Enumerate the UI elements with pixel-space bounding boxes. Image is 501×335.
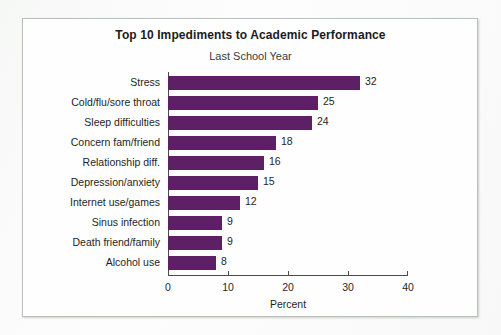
bar-row: Death friend/family9 — [168, 236, 408, 250]
category-label: Sleep difficulties — [84, 116, 160, 128]
scanned-page-background: the very top of the same students report… — [0, 0, 501, 335]
x-axis-tick-label: 10 — [222, 281, 234, 293]
x-axis-end-cap — [407, 271, 408, 276]
bar-row: Sinus infection9 — [168, 216, 408, 230]
x-axis-tick — [228, 271, 229, 276]
bar-value-label: 12 — [245, 195, 257, 207]
category-label: Cold/flu/sore throat — [71, 96, 160, 108]
bar — [168, 216, 222, 230]
x-axis-tick-label: 0 — [165, 281, 171, 293]
bar-row: Relationship diff.16 — [168, 156, 408, 170]
bar-value-label: 9 — [227, 215, 233, 227]
bar — [168, 256, 216, 270]
bar-row: Depression/anxiety15 — [168, 176, 408, 190]
x-axis-label: Percent — [168, 298, 408, 310]
bar-value-label: 18 — [281, 135, 293, 147]
category-label: Sinus infection — [92, 216, 160, 228]
bar-value-label: 9 — [227, 235, 233, 247]
x-axis-tick-label: 30 — [342, 281, 354, 293]
bar-value-label: 25 — [323, 95, 335, 107]
category-label: Depression/anxiety — [71, 176, 160, 188]
chart-title: Top 10 Impediments to Academic Performan… — [0, 28, 501, 42]
category-label: Death friend/family — [72, 236, 160, 248]
bar-value-label: 16 — [269, 155, 281, 167]
bar-row: Cold/flu/sore throat25 — [168, 96, 408, 110]
x-axis-tick — [348, 271, 349, 276]
bar-row: Alcohol use8 — [168, 256, 408, 270]
bar-row: Internet use/games12 — [168, 196, 408, 210]
bar — [168, 96, 318, 110]
x-axis-tick-label: 40 — [402, 281, 414, 293]
bar — [168, 156, 264, 170]
bar-row: Sleep difficulties24 — [168, 116, 408, 130]
bar — [168, 236, 222, 250]
category-label: Stress — [130, 76, 160, 88]
bar-row: Stress32 — [168, 76, 408, 90]
bar-value-label: 24 — [317, 115, 329, 127]
bar-chart-plot-area: Stress32Cold/flu/sore throat25Sleep diff… — [168, 72, 408, 276]
bar — [168, 136, 276, 150]
category-label: Relationship diff. — [83, 156, 160, 168]
bar-value-label: 32 — [365, 75, 377, 87]
category-label: Internet use/games — [70, 196, 160, 208]
x-axis-tick-label: 20 — [282, 281, 294, 293]
bar — [168, 176, 258, 190]
bar-value-label: 15 — [263, 175, 275, 187]
bar — [168, 76, 360, 90]
bar-value-label: 8 — [221, 255, 227, 267]
category-label: Alcohol use — [106, 256, 160, 268]
bar — [168, 116, 312, 130]
chart-subtitle: Last School Year — [0, 50, 501, 62]
bar — [168, 196, 240, 210]
bar-row: Concern fam/friend18 — [168, 136, 408, 150]
category-label: Concern fam/friend — [71, 136, 160, 148]
x-axis-tick — [288, 271, 289, 276]
